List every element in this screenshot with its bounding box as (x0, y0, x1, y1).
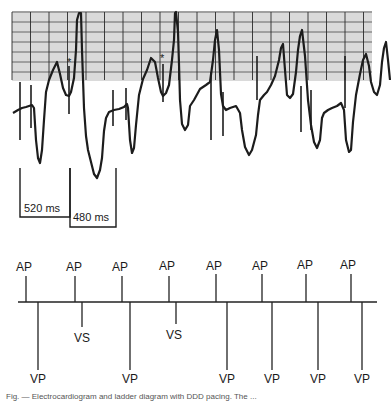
ecg-grid (12, 12, 372, 80)
ventricular-paced-label-6: VP (354, 372, 370, 386)
ventricular-paced-label-5: VP (310, 372, 326, 386)
figure-caption: Fig. — Electrocardiogram and ladder diag… (6, 392, 391, 401)
atrial-paced-label-8: AP (340, 258, 356, 272)
ladder-diagram (18, 274, 377, 370)
ventricular-paced-label-3: VP (219, 372, 235, 386)
atrial-paced-label-2: AP (66, 260, 82, 274)
ventricular-paced-label-4: VP (264, 372, 280, 386)
atrial-paced-label-7: AP (297, 258, 313, 272)
atrial-paced-label-4: AP (159, 259, 175, 273)
asterisk-mark-2: * (160, 52, 165, 64)
ecg-ladder-figure: * * 520 ms 480 ms AP AP AP AP AP AP AP A… (0, 0, 391, 402)
ventricular-sensed-label-2: VS (166, 328, 182, 342)
atrial-paced-label-1: AP (16, 260, 32, 274)
atrial-paced-label-3: AP (112, 260, 128, 274)
asterisk-mark-1: * (67, 56, 72, 68)
ventricular-sensed-label-1: VS (74, 331, 90, 345)
ecg-trace (13, 12, 390, 178)
ventricular-paced-label-2: VP (122, 372, 138, 386)
interval-label-480: 480 ms (73, 211, 110, 223)
ventricular-paced-label-1: VP (30, 372, 46, 386)
atrial-paced-label-6: AP (252, 259, 268, 273)
interval-label-520: 520 ms (24, 202, 61, 214)
atrial-paced-label-5: AP (206, 259, 222, 273)
